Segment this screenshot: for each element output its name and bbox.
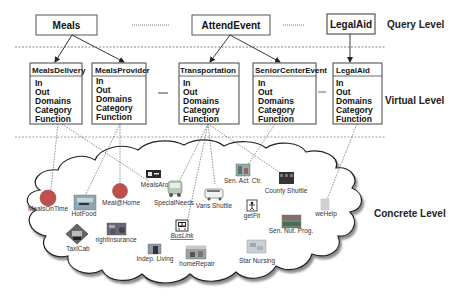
- meal-card-icon: [146, 170, 161, 178]
- query-node-label: AttendEvent: [202, 20, 262, 31]
- living-photo-icon: [148, 244, 161, 254]
- concrete-level-label: Concrete Level: [374, 208, 446, 219]
- service-label: Star Nursing: [239, 257, 276, 265]
- service-label: HotFood: [72, 210, 97, 217]
- house-photo-icon: [186, 246, 206, 259]
- service-label: getFit: [244, 212, 260, 220]
- attr-function: Function: [96, 112, 132, 122]
- service-label: TaxiCab: [66, 245, 90, 252]
- query-node-attendevent: AttendEvent: [192, 15, 270, 35]
- attr-function: Function: [258, 114, 294, 124]
- query-node-legalaid: LegalAid: [327, 14, 375, 34]
- virtual-node-title: LegalAid: [336, 66, 370, 75]
- service-label: Indep. Living: [137, 255, 174, 263]
- attr-function: Function: [336, 114, 372, 124]
- service-label: rightInsurance: [95, 236, 137, 244]
- fitness-icon: [247, 200, 257, 211]
- virtual-node-title: MealsProvider: [95, 66, 150, 75]
- query-node-meals: Meals: [36, 15, 97, 35]
- service-label: Sen. Nut. Prog.: [269, 227, 314, 235]
- query-node-label: LegalAid: [330, 19, 372, 30]
- insurance-car-icon: [107, 223, 126, 235]
- service-label: BusLink: [170, 232, 194, 239]
- query-to-virtual-arrows: [55, 34, 350, 62]
- attr-function: Function: [183, 114, 219, 124]
- virtual-node-mealsprovider: MealsProvider In Out Domains Category Fu…: [92, 63, 150, 124]
- red-circle-icon: [40, 190, 56, 206]
- activity-center-icon: [236, 164, 250, 176]
- virtual-level-label: Virtual Level: [385, 95, 445, 106]
- service-label: Sen. Act. Ctr.: [224, 177, 262, 184]
- query-level-label: Query Level: [387, 19, 444, 30]
- layered-service-diagram: Meals AttendEvent LegalAid Query Level M…: [0, 0, 458, 296]
- service-label: Vans Shuttle: [196, 202, 233, 209]
- virtual-node-title: Transportation: [180, 66, 236, 75]
- virtual-node-seniorcenterevent: SeniorCenterEvent In Out Domains Categor…: [253, 63, 327, 124]
- query-node-label: Meals: [53, 20, 81, 31]
- red-circle-icon: [113, 184, 128, 199]
- service-label: homeRepair: [179, 260, 215, 268]
- shuttle-bus-icon: [279, 172, 294, 184]
- service-hotfood[interactable]: HotFood: [72, 195, 97, 217]
- help-icon: [321, 199, 329, 210]
- virtual-node-title: SeniorCenterEvent: [255, 66, 327, 75]
- service-label: weHelp: [314, 210, 337, 218]
- attr-function: Function: [35, 114, 71, 124]
- service-label: SpecialNeeds: [154, 199, 195, 207]
- food-photo-icon: [74, 195, 96, 210]
- virtual-node-title: MealsDelivery: [32, 66, 86, 75]
- service-label: County Shuttle: [265, 187, 308, 195]
- virtual-node-mealsdelivery: MealsDelivery In Out Domains Category Fu…: [30, 63, 86, 124]
- service-label: Meal@Home: [102, 199, 140, 206]
- virtual-node-transportation: Transportation In Out Domains Category F…: [179, 63, 239, 124]
- bus-icon: [176, 220, 188, 231]
- nursing-photo-icon: [247, 240, 266, 253]
- virtual-node-legalaid: LegalAid In Out Domains Category Functio…: [333, 63, 382, 124]
- service-label: MealsOnTime: [28, 205, 69, 212]
